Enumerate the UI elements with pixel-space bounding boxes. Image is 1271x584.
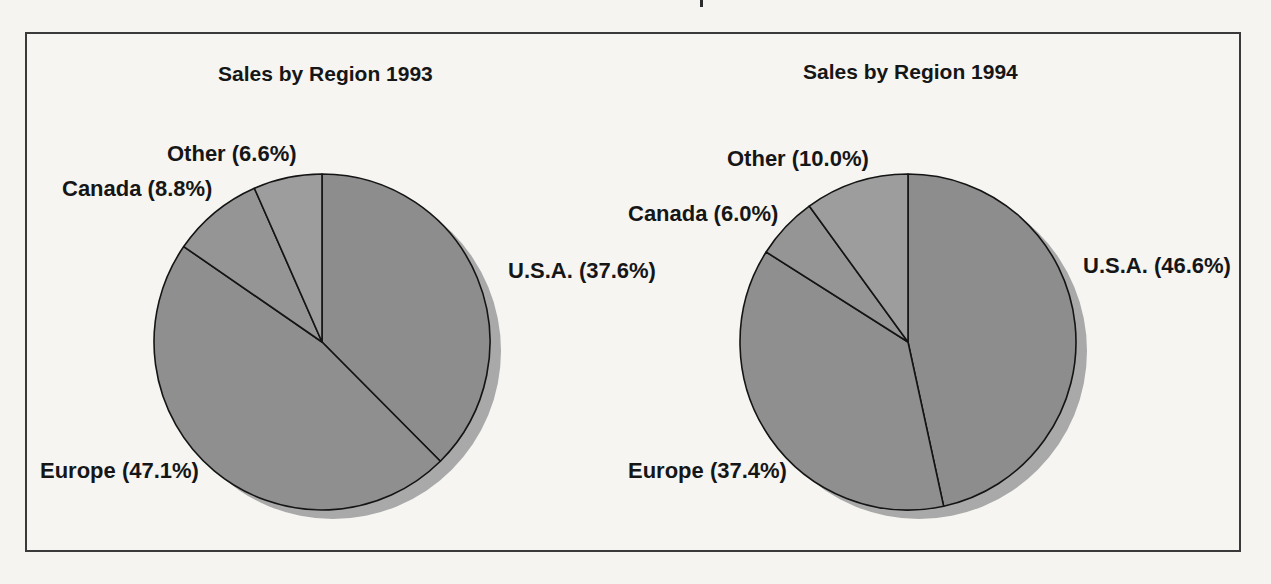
- slice-label-other-1994: Other (10.0%): [727, 146, 869, 172]
- slice-label-other-1993: Other (6.6%): [167, 141, 297, 167]
- chart-title-1993: Sales by Region 1993: [218, 61, 433, 86]
- slice-label-usa-1994: U.S.A. (46.6%): [1083, 253, 1231, 279]
- slice-label-europe-1994: Europe (37.4%): [628, 458, 787, 484]
- scan-artifact-tick: [700, 0, 703, 7]
- slice-label-europe-1993: Europe (47.1%): [40, 458, 199, 484]
- slice-label-canada-1994: Canada (6.0%): [628, 201, 778, 227]
- slice-label-canada-1993: Canada (8.8%): [62, 176, 212, 202]
- chart-title-1994: Sales by Region 1994: [803, 59, 1018, 84]
- slice-label-usa-1993: U.S.A. (37.6%): [508, 258, 656, 284]
